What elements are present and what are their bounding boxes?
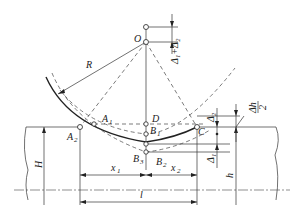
label-b2: B (156, 156, 162, 167)
svg-text:2: 2 (177, 167, 181, 175)
label-c: C (198, 126, 205, 137)
point-a1 (92, 122, 96, 126)
point-b1 (144, 132, 148, 136)
H-dimension: H (33, 127, 46, 205)
svg-text:Δ₁+Δ₂: Δ₁+Δ₂ (169, 38, 180, 65)
radius-arrowhead (58, 89, 65, 94)
label-b1: B (150, 125, 156, 136)
svg-text:2: 2 (257, 105, 268, 110)
point-b3 (144, 150, 148, 154)
point-d (144, 122, 148, 126)
point-b2 (144, 142, 148, 146)
label-a1-sub: 1 (109, 118, 113, 126)
svg-text:Δ₁: Δ₁ (205, 154, 216, 164)
svg-text:h: h (224, 173, 235, 178)
svg-text:1: 1 (117, 167, 121, 175)
label-b3-sub: 3 (139, 158, 144, 166)
delta-sum-dimension: Δ₁+Δ₂ (149, 14, 180, 65)
svg-text:Δ₂: Δ₂ (205, 112, 216, 123)
label-b3: B (133, 153, 139, 164)
svg-text:l: l (140, 189, 143, 200)
geometry-diagram: Δ₁+Δ₂ Δ₂ Δ₁ Δh 2 h H (0, 0, 294, 220)
radius-line (58, 42, 146, 94)
h-dimension: h (224, 127, 236, 205)
label-b1-sub: 1 (157, 130, 161, 138)
label-a2-sub: 2 (74, 136, 78, 144)
label-a1: A (101, 113, 109, 124)
x-dimensions: x 1 x 2 (80, 162, 197, 177)
label-o: O (134, 33, 141, 44)
point-top (144, 25, 149, 30)
svg-text:H: H (33, 160, 44, 169)
label-r: R (85, 59, 92, 70)
point-a2 (78, 125, 83, 130)
point-o (144, 40, 149, 45)
svg-text:x: x (170, 162, 176, 173)
l-dimension: l (80, 189, 197, 204)
svg-text:x: x (110, 162, 116, 173)
dh-half-dimension: Δh 2 (234, 101, 268, 142)
label-b2-sub: 2 (163, 161, 167, 169)
label-a2: A (66, 131, 74, 142)
delta-dimension: Δ₂ Δ₁ (205, 108, 219, 168)
dashed-o-to-a2 (80, 42, 146, 127)
label-d: D (151, 113, 160, 124)
workpiece-top-line (24, 127, 278, 200)
